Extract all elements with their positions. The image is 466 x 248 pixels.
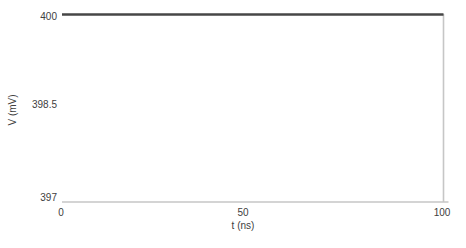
y-tick-label: 397	[18, 192, 57, 204]
x-axis-title: t (ns)	[203, 220, 283, 232]
x-tick-label: 0	[43, 207, 79, 219]
x-tick-label: 100	[424, 207, 460, 219]
voltage-time-chart: 400 398.5 397 0 50 100 V (mV) t (ns)	[0, 0, 466, 248]
y-tick-label: 398.5	[18, 99, 57, 111]
x-tick-label: 50	[225, 207, 261, 219]
y-tick-label: 400	[18, 11, 57, 23]
y-axis-title: V (mV)	[7, 94, 19, 125]
